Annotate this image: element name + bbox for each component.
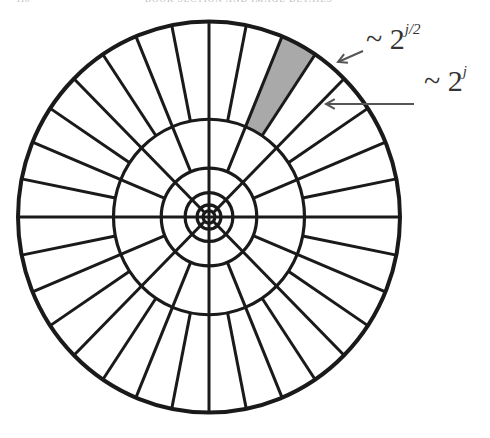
length-arrow	[326, 99, 414, 109]
width-annotation: ~ 2j/2	[366, 22, 421, 56]
spoke	[303, 179, 397, 198]
polar-tiling-diagram	[0, 0, 490, 438]
width-label-base: ~ 2	[366, 22, 405, 55]
width-arrow	[338, 51, 363, 63]
length-annotation: ~ 2j	[424, 64, 467, 98]
length-label-exponent: j	[463, 63, 467, 79]
length-label-base: ~ 2	[424, 64, 463, 97]
spoke	[172, 313, 191, 409]
spoke	[228, 25, 247, 121]
spoke	[172, 25, 191, 121]
spoke	[22, 179, 116, 198]
width-label-exponent: j/2	[405, 21, 421, 37]
spoke	[303, 236, 397, 255]
spoke	[228, 313, 247, 409]
spoke	[22, 236, 116, 255]
